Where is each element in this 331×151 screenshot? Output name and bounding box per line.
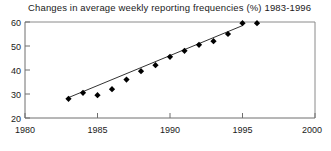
x-tick-label-2000: 2000 (302, 125, 322, 135)
data-point (109, 86, 115, 92)
y-tick-label-50: 50 (11, 42, 21, 52)
trend-line (69, 26, 243, 98)
y-axis-ticks: 60 50 40 30 20 (11, 18, 30, 124)
y-tick-label-20: 20 (11, 114, 21, 124)
data-point (239, 20, 245, 26)
x-tick-label-1980: 1980 (15, 125, 35, 135)
x-tick-label-1985: 1985 (87, 125, 107, 135)
y-tick-label-30: 30 (11, 90, 21, 100)
data-point (94, 92, 100, 98)
x-tick-label-1995: 1995 (232, 125, 252, 135)
y-tick-label-40: 40 (11, 66, 21, 76)
y-tick-label-60: 60 (11, 18, 21, 28)
data-point-markers (65, 20, 260, 102)
axes-frame (25, 22, 315, 118)
data-point (225, 31, 231, 37)
x-tick-label-1990: 1990 (160, 125, 180, 135)
chart-plot-area: 60 50 40 30 20 1980 1985 1990 1995 2000 (0, 0, 331, 151)
x-axis-ticks: 1980 1985 1990 1995 2000 (15, 113, 322, 135)
data-point (254, 20, 260, 26)
chart-screenshot: Changes in average weekly reporting freq… (0, 0, 331, 151)
data-point (123, 77, 129, 83)
